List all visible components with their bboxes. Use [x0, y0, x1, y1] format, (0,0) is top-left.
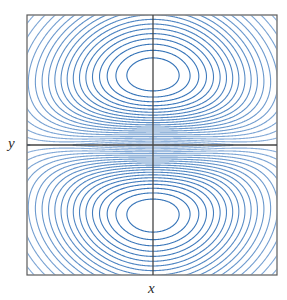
contour-plot-figure: y x	[0, 0, 287, 300]
contour-plot-canvas	[0, 0, 287, 300]
axis-lines	[27, 15, 277, 275]
y-axis-label: y	[8, 136, 15, 151]
x-axis-label: x	[148, 281, 155, 296]
